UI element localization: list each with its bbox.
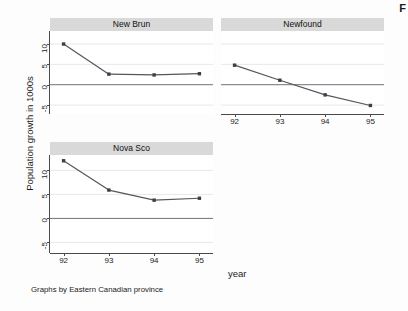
data-point-marker (369, 104, 372, 107)
y-tick-label: 0 (41, 218, 49, 222)
plot-svg-new-brun (50, 31, 213, 114)
panel-nova-sco: Nova Sco 1050-5 92939495 (50, 142, 213, 253)
panel-newfound: Newfound 92939495 (221, 18, 384, 114)
plot-area-nova-sco (50, 155, 213, 253)
data-point-marker (152, 198, 155, 201)
plot-svg-nova-sco (50, 155, 213, 253)
data-point-marker (107, 188, 110, 191)
edge-glyph: F (399, 3, 406, 14)
plot-svg-newfound (221, 31, 384, 114)
y-tick-label: 10 (41, 44, 49, 53)
panel-title-new-brun: New Brun (50, 18, 213, 31)
plot-area-newfound (221, 31, 384, 114)
data-point-marker (198, 197, 201, 200)
panel-title-nova-sco: Nova Sco (50, 142, 213, 155)
x-axis-title: year (228, 268, 246, 279)
data-point-marker (323, 93, 326, 96)
plot-area-new-brun (50, 31, 213, 114)
y-tick-label: -5 (41, 105, 49, 112)
figure-root: F Population growth in 1000s New Brun 10… (0, 0, 408, 311)
x-tick-label: 95 (366, 118, 375, 126)
y-axis-new-brun: 1050-5 (31, 31, 50, 114)
y-axis-nova-sco: 1050-5 (31, 155, 50, 253)
x-tick-label: 92 (230, 118, 239, 126)
y-tick-label: 5 (41, 64, 49, 68)
data-point-marker (278, 79, 281, 82)
data-line (235, 65, 371, 105)
data-point-marker (198, 72, 201, 75)
x-tick-label: 95 (195, 257, 204, 265)
data-point-marker (233, 63, 236, 66)
figure-caption: Graphs by Eastern Canadian province (31, 285, 163, 294)
y-tick-label: -5 (41, 242, 49, 249)
x-tick-label: 92 (59, 257, 68, 265)
y-tick-label: 0 (41, 85, 49, 89)
x-tick-label: 94 (150, 257, 159, 265)
x-tick-label: 93 (104, 257, 113, 265)
data-point-marker (62, 42, 65, 45)
data-point-marker (152, 73, 155, 76)
data-point-marker (62, 159, 65, 162)
y-tick-label: 5 (41, 194, 49, 198)
x-tick-label: 94 (321, 118, 330, 126)
x-axis-spine (221, 114, 384, 115)
panel-new-brun: New Brun 1050-5 (50, 18, 213, 114)
data-point-marker (107, 72, 110, 75)
data-line (64, 44, 200, 75)
panel-title-newfound: Newfound (221, 18, 384, 31)
y-tick-label: 10 (41, 170, 49, 179)
x-tick-label: 93 (275, 118, 284, 126)
x-axis-spine (50, 253, 213, 254)
